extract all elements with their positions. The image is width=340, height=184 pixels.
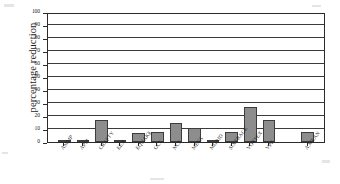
y-tick-label: 0	[37, 138, 40, 144]
y-tick-label: 90	[35, 21, 40, 27]
y-tick-label: 10	[35, 125, 40, 131]
y-tick-label: 50	[35, 73, 40, 79]
bar-series	[48, 14, 324, 142]
y-tick-label: 30	[35, 99, 40, 105]
y-tick-label: 20	[35, 112, 40, 118]
chart-screenshot: percentage reduction 0102030405060708090…	[0, 0, 340, 184]
y-tick-label: 100	[32, 8, 40, 14]
scan-speckle	[4, 4, 14, 7]
y-tick-label: 80	[35, 34, 40, 40]
y-tick-mark	[43, 143, 47, 144]
scan-speckle	[312, 5, 321, 7]
scan-speckle	[322, 160, 330, 163]
scan-speckle	[2, 152, 8, 154]
y-tick-label: 70	[35, 47, 40, 53]
y-axis-ticks: 0102030405060708090100	[0, 13, 47, 143]
y-tick-label: 60	[35, 60, 40, 66]
scan-speckle	[150, 178, 164, 180]
plot-area	[47, 13, 325, 143]
y-tick-label: 40	[35, 86, 40, 92]
